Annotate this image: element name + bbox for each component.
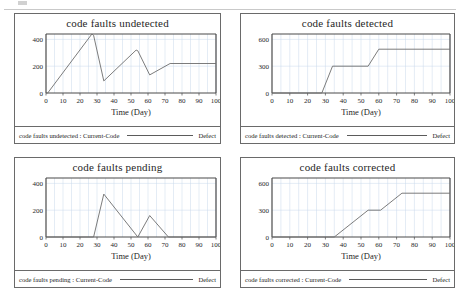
plot-area: 03006000102030405060708090100Time (Day): [241, 175, 454, 253]
svg-text:10: 10: [286, 97, 294, 105]
svg-text:80: 80: [411, 97, 419, 105]
svg-text:Time (Day): Time (Day): [111, 251, 151, 261]
svg-text:70: 70: [162, 241, 170, 249]
chart-legend: code faults pending : Current-Code Defec…: [15, 270, 220, 287]
svg-text:0: 0: [40, 234, 44, 242]
legend-dataset-label: Defect: [432, 131, 450, 140]
chart-title: code faults corrected: [241, 161, 454, 174]
svg-text:90: 90: [196, 97, 204, 105]
svg-text:300: 300: [259, 207, 270, 215]
svg-text:Time (Day): Time (Day): [341, 107, 381, 117]
svg-text:10: 10: [60, 241, 68, 249]
svg-text:0: 0: [270, 97, 274, 105]
svg-text:50: 50: [128, 241, 136, 249]
svg-text:0: 0: [44, 241, 48, 249]
legend-line-swatch: [347, 135, 428, 136]
plot-svg: 03006000102030405060708090100Time (Day): [241, 31, 454, 127]
svg-text:20: 20: [304, 241, 312, 249]
svg-text:0: 0: [266, 234, 270, 242]
plot-area: 02004000102030405060708090100Time (Day): [15, 175, 220, 253]
legend-dataset-label: Defect: [198, 131, 216, 140]
plot-area: 02004000102030405060708090100Time (Day): [15, 31, 220, 109]
svg-text:40: 40: [111, 241, 119, 249]
plot-svg: 02004000102030405060708090100Time (Day): [15, 175, 220, 271]
svg-text:20: 20: [77, 241, 85, 249]
svg-text:70: 70: [393, 241, 401, 249]
chart-sheet: code faults undetected 02004000102030405…: [0, 0, 460, 293]
svg-text:90: 90: [429, 241, 437, 249]
legend-line-swatch: [120, 279, 193, 280]
svg-text:200: 200: [33, 207, 44, 215]
svg-text:60: 60: [145, 97, 153, 105]
chart-panel-code-faults-detected[interactable]: code faults detected 0300600010203040506…: [240, 13, 455, 144]
chart-title: code faults undetected: [15, 17, 220, 30]
legend-series-label: code faults detected : Current-Code: [245, 131, 339, 140]
svg-text:10: 10: [286, 241, 294, 249]
svg-text:30: 30: [94, 97, 102, 105]
chart-title: code faults pending: [15, 161, 220, 174]
svg-text:90: 90: [196, 241, 204, 249]
chart-legend: code faults detected : Current-Code Defe…: [241, 126, 454, 143]
svg-text:Time (Day): Time (Day): [341, 251, 381, 261]
svg-text:100: 100: [445, 241, 454, 249]
legend-line-swatch: [127, 135, 193, 136]
svg-text:0: 0: [270, 241, 274, 249]
svg-text:80: 80: [411, 241, 419, 249]
svg-text:600: 600: [259, 180, 270, 188]
svg-text:80: 80: [179, 97, 187, 105]
svg-text:70: 70: [162, 97, 170, 105]
plot-svg: 03006000102030405060708090100Time (Day): [241, 175, 454, 271]
legend-line-swatch: [349, 279, 427, 280]
svg-text:40: 40: [340, 97, 348, 105]
svg-text:20: 20: [304, 97, 312, 105]
svg-text:60: 60: [145, 241, 153, 249]
svg-text:50: 50: [358, 241, 366, 249]
svg-text:100: 100: [445, 97, 454, 105]
svg-text:600: 600: [259, 36, 270, 44]
chart-panel-code-faults-pending[interactable]: code faults pending 02004000102030405060…: [14, 157, 221, 288]
svg-text:0: 0: [266, 90, 270, 98]
svg-text:50: 50: [128, 97, 136, 105]
svg-text:0: 0: [40, 90, 44, 98]
chart-legend: code faults corrected : Current-Code Def…: [241, 270, 454, 287]
svg-text:0: 0: [44, 97, 48, 105]
svg-text:100: 100: [211, 241, 220, 249]
page-artifact: [18, 1, 27, 5]
legend-series-label: code faults undetected : Current-Code: [19, 131, 119, 140]
svg-text:40: 40: [340, 241, 348, 249]
svg-text:10: 10: [60, 97, 68, 105]
svg-text:90: 90: [429, 97, 437, 105]
svg-text:30: 30: [322, 97, 330, 105]
svg-text:100: 100: [211, 97, 220, 105]
chart-panel-code-faults-undetected[interactable]: code faults undetected 02004000102030405…: [14, 13, 221, 144]
chart-title: code faults detected: [241, 17, 454, 30]
svg-text:70: 70: [393, 97, 401, 105]
chart-grid: code faults undetected 02004000102030405…: [0, 9, 460, 293]
svg-text:200: 200: [33, 63, 44, 71]
legend-series-label: code faults corrected : Current-Code: [245, 275, 341, 284]
svg-text:40: 40: [111, 97, 119, 105]
svg-text:400: 400: [33, 36, 44, 44]
plot-area: 03006000102030405060708090100Time (Day): [241, 31, 454, 109]
plot-svg: 02004000102030405060708090100Time (Day): [15, 31, 220, 127]
svg-text:80: 80: [179, 241, 187, 249]
legend-dataset-label: Defect: [198, 275, 216, 284]
svg-text:60: 60: [375, 241, 383, 249]
legend-dataset-label: Defect: [432, 275, 450, 284]
svg-text:30: 30: [94, 241, 102, 249]
svg-text:60: 60: [375, 97, 383, 105]
svg-text:50: 50: [358, 97, 366, 105]
svg-text:300: 300: [259, 63, 270, 71]
chart-panel-code-faults-corrected[interactable]: code faults corrected 030060001020304050…: [240, 157, 455, 288]
svg-text:20: 20: [77, 97, 85, 105]
svg-text:Time (Day): Time (Day): [111, 107, 151, 117]
legend-series-label: code faults pending : Current-Code: [19, 275, 112, 284]
chart-legend: code faults undetected : Current-Code De…: [15, 126, 220, 143]
svg-text:30: 30: [322, 241, 330, 249]
svg-text:400: 400: [33, 180, 44, 188]
